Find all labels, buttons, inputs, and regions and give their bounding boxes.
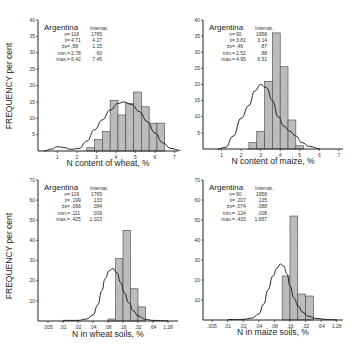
histogram-bar	[149, 123, 157, 151]
x-tick-label: .01	[60, 324, 67, 330]
stat-international: .135	[257, 197, 267, 203]
stat-international: 6.51	[257, 56, 267, 62]
y-tick-label: 5	[32, 131, 35, 137]
x-tick-label: 1.28	[163, 324, 173, 330]
stat-international: 1765	[91, 191, 102, 197]
histogram-bar	[288, 120, 296, 149]
figure-canvas: 5101520253035401234567N content of wheat…	[0, 0, 359, 354]
stat-label: min.=	[58, 210, 70, 216]
y-tick-label: 30	[29, 257, 35, 263]
stat-international: 1.15	[92, 43, 102, 49]
y-tick-label: 20	[194, 277, 200, 283]
x-tick-label: 1	[56, 154, 59, 160]
stat-argentina: .433	[236, 216, 246, 222]
histogram-bars	[249, 33, 304, 149]
y-tick-label: 25	[29, 66, 35, 72]
histogram-bar	[126, 104, 134, 151]
y-tick-label: 40	[29, 237, 35, 243]
x-tick-label: 1	[220, 152, 223, 158]
x-tick-label: .005	[43, 324, 53, 330]
histogram-bar	[118, 115, 126, 151]
stat-argentina: 2.52	[236, 50, 246, 56]
stats-legend: ArgentinaInternat.n=901958x̄=3.813.14±s=…	[209, 23, 273, 62]
stat-argentina: .074	[236, 203, 246, 209]
x-tick-label: .64	[150, 324, 157, 330]
y-tick-label: 35	[29, 33, 35, 39]
stat-international: 1765	[91, 31, 102, 37]
stat-label: max.=	[56, 216, 70, 222]
stat-argentina: 6.42	[71, 56, 81, 62]
stat-label: ±s=	[227, 43, 235, 49]
stat-label: ±s=	[62, 43, 70, 49]
stat-international: .084	[92, 203, 102, 209]
y-tick-label: 35	[194, 33, 200, 39]
chart-panel-wheat-soils: 10203040506070.005.01.02.04.08.16.32.641…	[4, 177, 178, 339]
histogram-bar	[110, 100, 118, 151]
stat-label: x̄=	[65, 37, 71, 43]
stat-argentina: 90	[236, 191, 242, 197]
legend-reference: Internat.	[90, 185, 108, 191]
y-tick-label: 40	[29, 17, 35, 23]
stat-argentina: .425	[71, 216, 81, 222]
stat-argentina: .88	[71, 43, 78, 49]
histogram-bar	[280, 67, 288, 149]
stat-international: 3.14	[257, 37, 267, 43]
histogram-bar	[249, 143, 257, 149]
stat-international: .88	[260, 50, 267, 56]
stat-label: n=	[229, 191, 235, 197]
y-tick-label: 70	[194, 177, 200, 183]
y-tick-label: 60	[29, 197, 35, 203]
stat-label: n=	[64, 191, 70, 197]
stat-international: 1.657	[254, 216, 267, 222]
y-tick-label: 20	[29, 277, 35, 283]
stat-label: x̄=	[230, 197, 236, 203]
y-tick-label: 25	[194, 65, 200, 71]
y-tick-label: 50	[194, 217, 200, 223]
stat-international: .133	[92, 197, 102, 203]
x-tick-label: .64	[318, 323, 325, 329]
stat-label: max.=	[221, 56, 235, 62]
stat-argentina: .46	[236, 43, 243, 49]
histogram-bar	[272, 33, 280, 149]
histogram-bars	[87, 92, 165, 151]
stat-international: 1.023	[89, 216, 102, 222]
y-tick-label: 5	[197, 130, 200, 136]
stat-argentina: 118	[71, 31, 79, 37]
stat-label: x̄=	[65, 197, 71, 203]
stat-label: x̄=	[230, 37, 236, 43]
stat-international: .60	[95, 50, 102, 56]
stat-argentina: .111	[71, 210, 80, 216]
stat-international: 7.45	[92, 56, 102, 62]
stat-label: max.=	[56, 56, 70, 62]
histogram-bars	[108, 230, 146, 321]
histogram-bar	[102, 131, 110, 151]
y-tick-label: 10	[194, 297, 200, 303]
chart-panel-maize-soils: 10203040506070.005.01.02.04.08.16.32.641…	[194, 177, 343, 337]
stat-international: .009	[92, 210, 102, 216]
histogram-bar	[115, 259, 123, 321]
stat-argentina: .124	[236, 210, 246, 216]
y-tick-label: 20	[29, 82, 35, 88]
y-tick-label: 40	[194, 17, 200, 23]
stat-label: min.=	[223, 210, 235, 216]
stats-legend: ArgentinaInternat.n=1191765x̄=.199.133±s…	[44, 183, 108, 222]
histogram-bar	[130, 289, 138, 321]
stats-legend: ArgentinaInternat.n=901958x̄=.207.135±s=…	[209, 183, 273, 222]
x-tick-label: 7	[337, 152, 340, 158]
y-tick-label: 15	[29, 99, 35, 105]
y-tick-label: 60	[194, 197, 200, 203]
y-tick-label: 20	[194, 81, 200, 87]
stat-label: min.=	[58, 50, 70, 56]
histogram-bar	[95, 140, 103, 151]
y-tick-label: 50	[29, 217, 35, 223]
y-tick-label: 30	[194, 49, 200, 55]
x-tick-label: .005	[207, 323, 217, 329]
stat-international: 1958	[256, 191, 267, 197]
x-axis-title: N content of maize, %	[231, 156, 315, 166]
x-tick-label: 6	[154, 154, 157, 160]
stat-argentina: .199	[71, 197, 81, 203]
legend-reference: Internat.	[255, 25, 273, 31]
x-axis-title: N content of wheat, %	[66, 158, 150, 168]
histogram-bar	[257, 131, 265, 149]
stat-international: .87	[260, 43, 267, 49]
